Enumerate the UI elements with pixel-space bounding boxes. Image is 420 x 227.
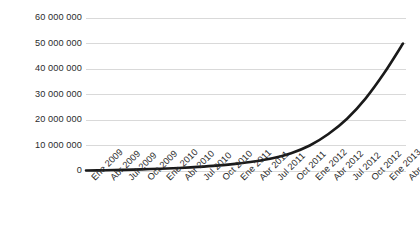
x-axis-tick-label: Ene 2013 xyxy=(388,176,395,183)
x-axis-tick-label: Ene 2009 xyxy=(90,176,97,183)
x-axis-tick-label: Oct 2011 xyxy=(295,176,302,183)
x-axis-tick-label: Abr 2012 xyxy=(332,176,339,183)
x-axis-tick-label: Abr 2010 xyxy=(183,176,190,183)
x-axis-tick-label: Abr 2011 xyxy=(258,176,265,183)
x-axis-tick-label: Jul 2009 xyxy=(127,176,134,183)
x-axis-tick-label: Oct 2012 xyxy=(370,176,377,183)
x-axis-tick-label: Ene 2010 xyxy=(165,176,172,183)
x-axis-tick-label: Abr 2013 xyxy=(407,176,414,183)
x-axis-tick-label: Jul 2011 xyxy=(276,176,283,183)
x-axis-tick-label: Abr 2009 xyxy=(109,176,116,183)
x-axis-tick-label: Oct 2010 xyxy=(221,176,228,183)
x-axis-tick-label: Jul 2012 xyxy=(351,176,358,183)
x-axis-tick-label: Ene 2011 xyxy=(239,176,246,183)
x-axis-tick-label: Oct 2009 xyxy=(146,176,153,183)
x-axis-tick-label: Ene 2012 xyxy=(314,176,321,183)
x-axis-tick-label: Jul 2010 xyxy=(202,176,209,183)
x-axis-tick-labels: Ene 2009Abr 2009Jul 2009Oct 2009Ene 2010… xyxy=(0,0,420,227)
line-chart: 60 000 00050 000 00040 000 00030 000 000… xyxy=(0,0,420,227)
